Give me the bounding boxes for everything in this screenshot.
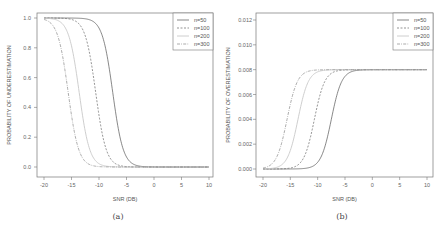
y-tick-label: 0.012 [238, 17, 252, 23]
x-tick-label: -15 [68, 182, 76, 188]
y-axis-title: PROBABILITY OF UNDERESTIMATION [6, 45, 12, 144]
legend-label: n=300 [194, 41, 209, 47]
legend-label: n=50 [194, 17, 206, 23]
chart-panel-overestimation: -20-15-10-50510SNR (DB)0.0000.0020.0040.… [225, 13, 433, 221]
x-axis: -20-15-10-50510 [259, 177, 430, 188]
x-tick-label: -20 [259, 182, 267, 188]
x-tick-label: 0 [371, 182, 374, 188]
y-tick-label: 0.008 [238, 67, 252, 73]
legend-label: n=100 [194, 25, 209, 31]
subfigure-caption: (b) [336, 212, 347, 221]
x-tick-label: 5 [398, 182, 401, 188]
legend-label: n=100 [414, 25, 429, 31]
x-tick-label: -10 [95, 182, 103, 188]
y-tick-label: 0.2 [23, 134, 31, 140]
series-line-n300 [263, 70, 427, 168]
x-tick-label: -5 [343, 182, 348, 188]
x-axis-title: SNR (DB) [113, 196, 138, 202]
x-axis-title: SNR (DB) [332, 196, 357, 202]
x-tick-label: 10 [424, 182, 430, 188]
y-tick-label: 0.0 [23, 164, 31, 170]
y-tick-label: 0.004 [238, 116, 252, 122]
legend-label: n=300 [414, 41, 429, 47]
x-tick-label: 0 [152, 182, 155, 188]
series-line-n100 [263, 70, 427, 169]
y-tick-label: 0.006 [238, 92, 252, 98]
y-tick-label: 0.002 [238, 141, 252, 147]
x-tick-label: 5 [180, 182, 183, 188]
y-tick-label: 1.0 [23, 15, 31, 21]
y-tick-label: 0.010 [238, 42, 252, 48]
legend-label: n=200 [194, 33, 209, 39]
x-tick-label: -10 [314, 182, 322, 188]
x-tick-label: 10 [206, 182, 212, 188]
x-tick-label: -15 [286, 182, 294, 188]
y-tick-label: 0.000 [238, 166, 252, 172]
x-axis: -20-15-10-50510 [40, 177, 212, 188]
series-lines [263, 70, 427, 169]
y-tick-label: 0.4 [23, 104, 31, 110]
figure: -20-15-10-50510SNR (DB)0.00.20.40.60.81.… [0, 0, 445, 235]
legend: n=50n=100n=200n=300 [173, 13, 213, 50]
series-line-n200 [263, 70, 427, 169]
y-axis: 0.0000.0020.0040.0060.0080.0100.012 [238, 17, 256, 172]
y-axis-title: PROBABILITY OF OVERESTIMATION [225, 47, 231, 142]
legend: n=50n=100n=200n=300 [393, 13, 433, 50]
legend-label: n=200 [414, 33, 429, 39]
y-tick-label: 0.6 [23, 75, 31, 81]
x-tick-label: -5 [124, 182, 129, 188]
y-axis: 0.00.20.40.60.81.0 [23, 15, 37, 170]
legend-label: n=50 [414, 17, 426, 23]
subfigure-caption: (a) [112, 212, 123, 221]
series-line-n50 [263, 70, 427, 169]
y-tick-label: 0.8 [23, 45, 31, 51]
chart-panel-underestimation: -20-15-10-50510SNR (DB)0.00.20.40.60.81.… [6, 13, 213, 221]
x-tick-label: -20 [40, 182, 48, 188]
